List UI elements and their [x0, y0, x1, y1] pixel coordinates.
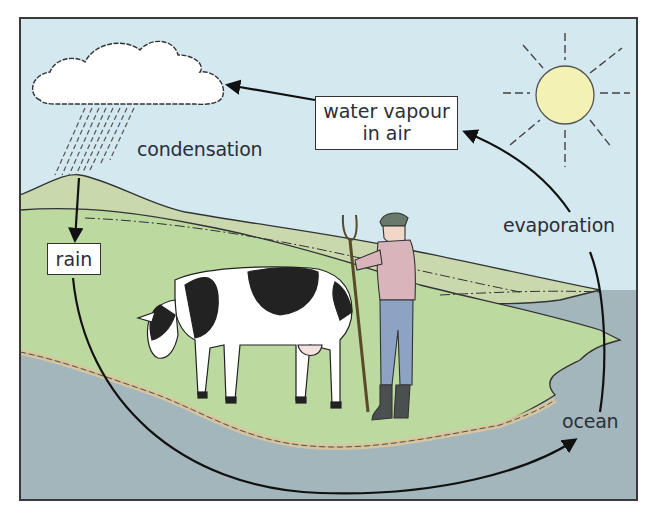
evaporation-label: evaporation — [503, 214, 615, 236]
water-vapour-label-line2: in air — [316, 122, 457, 144]
water-vapour-label-line1: water vapour — [316, 100, 457, 122]
water-vapour-box: water vapour in air — [315, 96, 458, 150]
ocean-label: ocean — [562, 410, 618, 432]
rain-box: rain — [47, 243, 101, 275]
condensation-label: condensation — [137, 138, 262, 160]
